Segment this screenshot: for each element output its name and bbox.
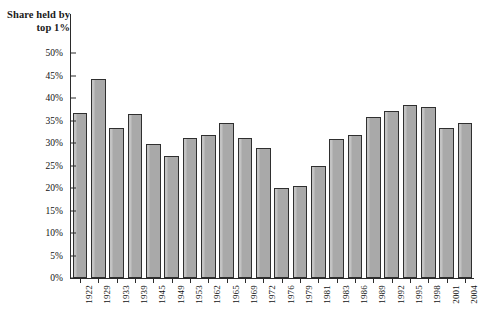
bar[interactable] (238, 138, 253, 278)
x-axis-line (70, 278, 474, 279)
x-axis-tick-mark (135, 279, 136, 283)
bar-chart: Share held by top 1% 0%5%10%15%20%25%30%… (0, 0, 478, 319)
bar-slot (164, 48, 179, 278)
x-axis-tick-label: 1953 (194, 285, 204, 304)
bar[interactable] (183, 138, 198, 278)
bar[interactable] (458, 123, 473, 278)
x-axis-tick-label: 1965 (231, 285, 241, 304)
x-axis-tick-label: 1933 (121, 285, 131, 304)
x-axis-tick-label: 1929 (102, 285, 112, 304)
bar[interactable] (366, 117, 381, 278)
x-axis-tick-label: 2001 (451, 285, 461, 304)
x-axis-tick-mark (245, 279, 246, 283)
x-axis-tick-mark (263, 279, 264, 283)
x-axis-tick-label: 1979 (304, 285, 314, 304)
chart-title: Share held by top 1% (4, 8, 70, 34)
bar-slot (329, 48, 344, 278)
x-axis-tick-mark (80, 279, 81, 283)
x-axis-tick-label: 1986 (359, 285, 369, 304)
y-axis-tick-mark (70, 255, 76, 256)
bar-slot (256, 48, 271, 278)
bar-slot (274, 48, 289, 278)
bars-layer (71, 48, 474, 278)
x-axis-tick-mark (428, 279, 429, 283)
bar-slot (439, 48, 454, 278)
bar[interactable] (421, 107, 436, 278)
x-axis-tick-label: 1989 (377, 285, 387, 304)
bar[interactable] (274, 188, 289, 278)
bar-slot (146, 48, 161, 278)
bar[interactable] (403, 105, 418, 278)
y-axis-tick-label: 15% (46, 206, 70, 216)
bar-slot (238, 48, 253, 278)
x-axis-tick-label: 1981 (322, 285, 332, 304)
bar[interactable] (219, 123, 234, 278)
bar-slot (128, 48, 143, 278)
bar[interactable] (384, 111, 399, 278)
y-axis-tick-label: 10% (46, 228, 70, 238)
x-axis-tick-label: 1962 (212, 285, 222, 304)
bar[interactable] (256, 148, 271, 279)
x-axis-tick-mark (300, 279, 301, 283)
y-axis-tick-label: 5% (50, 251, 70, 261)
x-axis-tick-label: 1972 (267, 285, 277, 304)
y-axis-tick-mark (70, 233, 76, 234)
bar[interactable] (91, 79, 106, 278)
y-axis-tick-mark (70, 98, 76, 99)
bar[interactable] (348, 135, 363, 278)
y-axis-tick-label: 25% (46, 161, 70, 171)
x-axis-tick-mark (98, 279, 99, 283)
y-axis-tick-label: 20% (46, 183, 70, 193)
x-axis-tick-label: 1945 (157, 285, 167, 304)
x-axis-tick-mark (227, 279, 228, 283)
bar-slot (109, 48, 124, 278)
y-axis-tick-label: 30% (46, 138, 70, 148)
x-axis-tick-mark (117, 279, 118, 283)
y-axis-tick-label: 50% (46, 48, 70, 58)
bar[interactable] (109, 128, 124, 278)
y-axis-tick-mark (70, 278, 76, 279)
x-axis-tick-label: 1992 (396, 285, 406, 304)
bar-slot (421, 48, 436, 278)
x-axis-tick-label: 1983 (341, 285, 351, 304)
bar[interactable] (201, 135, 216, 278)
bar-slot (91, 48, 106, 278)
x-axis-tick-mark (355, 279, 356, 283)
x-axis-tick-mark (172, 279, 173, 283)
bar-slot (201, 48, 216, 278)
x-axis-tick-mark (190, 279, 191, 283)
bar-slot (458, 48, 473, 278)
y-axis-tick-label: 40% (46, 93, 70, 103)
x-axis-tick-label: 1976 (286, 285, 296, 304)
x-axis-tick-label: 1969 (249, 285, 259, 304)
y-axis-tick-mark (70, 75, 76, 76)
bar[interactable] (164, 156, 179, 278)
bar[interactable] (293, 186, 308, 278)
y-axis-tick-label: 45% (46, 71, 70, 81)
bar[interactable] (73, 113, 88, 278)
x-axis-tick-mark (318, 279, 319, 283)
bar[interactable] (146, 144, 161, 278)
x-axis-tick-label: 1995 (414, 285, 424, 304)
bar-slot (403, 48, 418, 278)
y-axis-tick-mark (70, 53, 76, 54)
x-axis-tick-mark (410, 279, 411, 283)
x-axis-tick-label: 1939 (139, 285, 149, 304)
y-axis-tick-mark (70, 143, 76, 144)
bar-slot (311, 48, 326, 278)
bar-slot (293, 48, 308, 278)
y-axis-tick-mark (70, 165, 76, 166)
bar[interactable] (439, 128, 454, 278)
bar[interactable] (128, 114, 143, 278)
bar[interactable] (311, 166, 326, 278)
x-axis-tick-label: 1998 (432, 285, 442, 304)
bar-slot (366, 48, 381, 278)
x-axis-tick-mark (392, 279, 393, 283)
x-axis-tick-mark (153, 279, 154, 283)
bar-slot (348, 48, 363, 278)
bar-slot (73, 48, 88, 278)
bar-slot (384, 48, 399, 278)
bar[interactable] (329, 139, 344, 278)
x-axis-tick-mark (208, 279, 209, 283)
y-axis-tick-mark (70, 210, 76, 211)
